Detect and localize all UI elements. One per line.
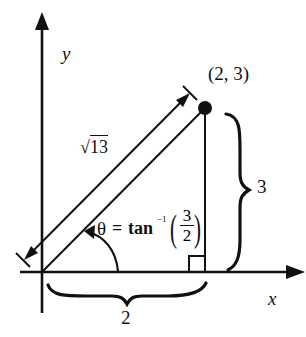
horizontal-leg-label: 2 (121, 308, 131, 327)
angle-formula: θ = tan −1 ( 3 2 ) (97, 205, 207, 255)
inverse-exponent: −1 (157, 215, 167, 224)
vertical-leg-label: 3 (257, 177, 267, 196)
equals-sign: = (112, 219, 122, 237)
paren-close: ) (194, 209, 201, 247)
fraction: 3 2 (180, 207, 194, 244)
x-axis-arrow-icon (286, 265, 305, 279)
x-axis-label: x (268, 289, 276, 308)
hypotenuse-label: √13 (80, 138, 108, 156)
diagram-svg (0, 0, 306, 337)
radicand: 13 (90, 135, 108, 157)
diagram-canvas: y x (2, 3) √13 3 2 θ = tan −1 ( 3 2 ) (0, 0, 306, 337)
theta-symbol: θ (97, 219, 106, 238)
x-axis (20, 265, 305, 279)
y-axis-arrow-icon (35, 12, 49, 30)
paren-open: ( (170, 209, 177, 247)
horizontal-brace (48, 283, 206, 304)
right-angle-marker (189, 256, 205, 272)
fraction-numerator: 3 (180, 207, 194, 224)
y-axis-label: y (62, 44, 70, 63)
fraction-denominator: 2 (180, 227, 194, 244)
radical-sign: √ (80, 137, 90, 157)
point-label: (2, 3) (208, 64, 249, 83)
tan-function: tan (128, 219, 153, 237)
vertical-brace (226, 114, 249, 270)
point-dot (198, 101, 212, 115)
